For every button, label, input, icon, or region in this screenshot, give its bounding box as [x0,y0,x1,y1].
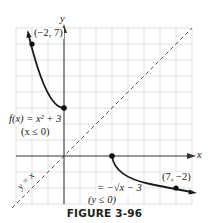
curve-f-inverse-domain-label: (y ≤ 0) [87,195,117,206]
point-0-3 [61,105,67,111]
curve-f [29,36,64,108]
point-7-neg2 [173,185,178,190]
y-axis-label: y [60,14,65,25]
figure-caption: FIGURE 3-96 [0,207,209,219]
figure-3-96: y x (−2, 7) (7, −2) f(x) = x² + 3 (x ≤ 0… [0,0,209,223]
point-label-neg2-7: (−2, 7) [33,28,64,39]
curve-f-label: f(x) = x² + 3 [8,114,62,125]
x-axis-label: x [197,150,202,161]
curve-f-inverse-arrow-icon [189,190,198,195]
curve-f-inverse-label: = −√x − 3 [96,183,143,194]
point-neg2-7 [29,41,34,46]
x-axis-arrow-icon [187,153,196,159]
curve-f-domain-label: (x ≤ 0) [20,127,51,138]
curve-f-arrow-icon [27,30,32,38]
point-3-0 [109,153,115,159]
point-label-7-neg2: (7, −2) [161,172,192,183]
